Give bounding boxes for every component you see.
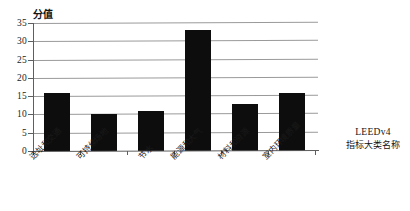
- y-tick-35: [28, 23, 34, 24]
- y-tick-20: [28, 78, 34, 79]
- bar-chart: 分值 35 30 25 20 15 10 5 0 选址和交通: [0, 0, 410, 211]
- y-tick-5: [28, 133, 34, 134]
- x-axis-title-line1: LEEDv4: [337, 126, 409, 139]
- y-tick-label-25: 25: [5, 56, 27, 66]
- x-tick-2: [127, 151, 128, 155]
- y-tick-30: [28, 41, 34, 42]
- gridline-20: [33, 77, 318, 79]
- x-axis-title: LEEDv4 指标大类名称: [337, 126, 409, 152]
- y-tick-25: [28, 60, 34, 61]
- y-tick-label-5: 5: [5, 129, 27, 139]
- y-tick-label-15: 15: [5, 92, 27, 102]
- y-tick-label-35: 35: [5, 19, 27, 29]
- plot-area: [33, 23, 318, 151]
- y-tick-label-20: 20: [5, 74, 27, 84]
- gridline-30: [33, 40, 318, 42]
- y-tick-label-30: 30: [5, 37, 27, 47]
- x-axis-title-line2: 指标大类名称: [337, 139, 409, 152]
- y-tick-label-0: 0: [5, 147, 27, 157]
- gridline-25: [33, 58, 318, 60]
- gridline-10: [33, 113, 318, 115]
- gridline-35: [33, 22, 318, 24]
- y-axis-title: 分值: [33, 9, 53, 20]
- y-tick-10: [28, 114, 34, 115]
- y-tick-label-10: 10: [5, 110, 27, 120]
- x-tick-6: [315, 151, 316, 155]
- y-tick-15: [28, 96, 34, 97]
- gridline-15: [33, 95, 318, 97]
- gridline-5: [33, 131, 318, 133]
